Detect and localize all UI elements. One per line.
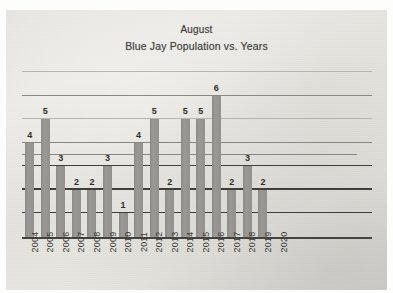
chart-title: August bbox=[6, 22, 387, 37]
bar-2009[interactable]: 3 bbox=[100, 72, 116, 237]
x-tick-slot-2005: 2005 bbox=[38, 240, 54, 288]
x-tick-slot-2008: 2008 bbox=[84, 240, 100, 288]
bar-2007[interactable]: 2 bbox=[69, 72, 85, 237]
bar-value-label-2017: 2 bbox=[229, 177, 234, 188]
bar-series: 4532231452556232 bbox=[22, 72, 372, 237]
x-tick-slot-2014: 2014 bbox=[177, 240, 193, 288]
bar-value-label-2014: 5 bbox=[183, 106, 188, 117]
bar-value-label-2007: 2 bbox=[74, 177, 79, 188]
chart-title-block: August Blue Jay Population vs. Years bbox=[6, 22, 387, 54]
bar-value-label-2009: 3 bbox=[105, 153, 110, 164]
bar-value-label-2018: 3 bbox=[245, 153, 250, 164]
bar-value-label-2010: 1 bbox=[121, 200, 126, 211]
x-tick-slot-2019: 2019 bbox=[255, 240, 271, 288]
bar-2006[interactable]: 3 bbox=[53, 72, 69, 237]
x-axis-tick-labels: 2004200520062007200820092010201120122013… bbox=[22, 240, 372, 288]
x-tick-slot-2010: 2010 bbox=[115, 240, 131, 288]
bar-2014[interactable]: 5 bbox=[177, 72, 193, 237]
bar-2004[interactable]: 4 bbox=[22, 72, 38, 237]
x-tick-slot-2009: 2009 bbox=[100, 240, 116, 288]
x-tick-slot-2015: 2015 bbox=[193, 240, 209, 288]
bar-rect-2013[interactable]: 2 bbox=[165, 190, 174, 237]
plot-area: 4532231452556232 bbox=[22, 72, 372, 237]
bar-2018[interactable]: 3 bbox=[240, 72, 256, 237]
bar-rect-2004[interactable]: 4 bbox=[25, 143, 34, 237]
bar-value-label-2016: 6 bbox=[214, 83, 219, 94]
x-tick-slot-2004: 2004 bbox=[22, 240, 38, 288]
bar-value-label-2015: 5 bbox=[198, 106, 203, 117]
bar-value-label-2006: 3 bbox=[58, 153, 63, 164]
bar-rect-2006[interactable]: 3 bbox=[56, 166, 65, 237]
photographed-page: August Blue Jay Population vs. Years 453… bbox=[0, 0, 393, 293]
bar-rect-2015[interactable]: 5 bbox=[196, 119, 205, 237]
bar-rect-2019[interactable]: 2 bbox=[258, 190, 267, 237]
bar-rect-2018[interactable]: 3 bbox=[243, 166, 252, 237]
bar-2008[interactable]: 2 bbox=[84, 72, 100, 237]
bar-rect-2005[interactable]: 5 bbox=[41, 119, 50, 237]
chart-subtitle: Blue Jay Population vs. Years bbox=[6, 39, 387, 54]
bar-value-label-2012: 5 bbox=[152, 106, 157, 117]
x-tick-slot-2006: 2006 bbox=[53, 240, 69, 288]
bar-rect-2014[interactable]: 5 bbox=[181, 119, 190, 237]
bar-value-label-2005: 5 bbox=[43, 106, 48, 117]
bar-2011[interactable]: 4 bbox=[131, 72, 147, 237]
x-tick-slot-2018: 2018 bbox=[240, 240, 256, 288]
x-tick-slot-2011: 2011 bbox=[131, 240, 147, 288]
x-tick-slot-2012: 2012 bbox=[146, 240, 162, 288]
bar-2016[interactable]: 6 bbox=[209, 72, 225, 237]
bar-2017[interactable]: 2 bbox=[224, 72, 240, 237]
x-tick-slot-2017: 2017 bbox=[224, 240, 240, 288]
bar-value-label-2004: 4 bbox=[27, 130, 32, 141]
bar-2020[interactable] bbox=[271, 72, 287, 237]
bar-rect-2016[interactable]: 6 bbox=[212, 96, 221, 237]
bar-2012[interactable]: 5 bbox=[146, 72, 162, 237]
x-axis-line bbox=[22, 237, 372, 239]
bar-2005[interactable]: 5 bbox=[38, 72, 54, 237]
presentation-slide: August Blue Jay Population vs. Years 453… bbox=[6, 10, 387, 290]
bar-2019[interactable]: 2 bbox=[255, 72, 271, 237]
bar-2015[interactable]: 5 bbox=[193, 72, 209, 237]
bar-value-label-2008: 2 bbox=[89, 177, 94, 188]
bar-2013[interactable]: 2 bbox=[162, 72, 178, 237]
x-tick-label-2020: 2020 bbox=[279, 232, 289, 253]
bar-2010[interactable]: 1 bbox=[115, 72, 131, 237]
bar-value-label-2019: 2 bbox=[260, 177, 265, 188]
x-tick-slot-2007: 2007 bbox=[69, 240, 85, 288]
x-tick-slot-2020: 2020 bbox=[271, 240, 287, 288]
x-tick-slot-2013: 2013 bbox=[162, 240, 178, 288]
bar-rect-2009[interactable]: 3 bbox=[103, 166, 112, 237]
bar-value-label-2013: 2 bbox=[167, 177, 172, 188]
bar-rect-2007[interactable]: 2 bbox=[72, 190, 81, 237]
x-tick-slot-2016: 2016 bbox=[209, 240, 225, 288]
bar-rect-2008[interactable]: 2 bbox=[87, 190, 96, 237]
bar-rect-2017[interactable]: 2 bbox=[227, 190, 236, 237]
bar-value-label-2011: 4 bbox=[136, 130, 141, 141]
bar-rect-2012[interactable]: 5 bbox=[150, 119, 159, 237]
bar-rect-2011[interactable]: 4 bbox=[134, 143, 143, 237]
